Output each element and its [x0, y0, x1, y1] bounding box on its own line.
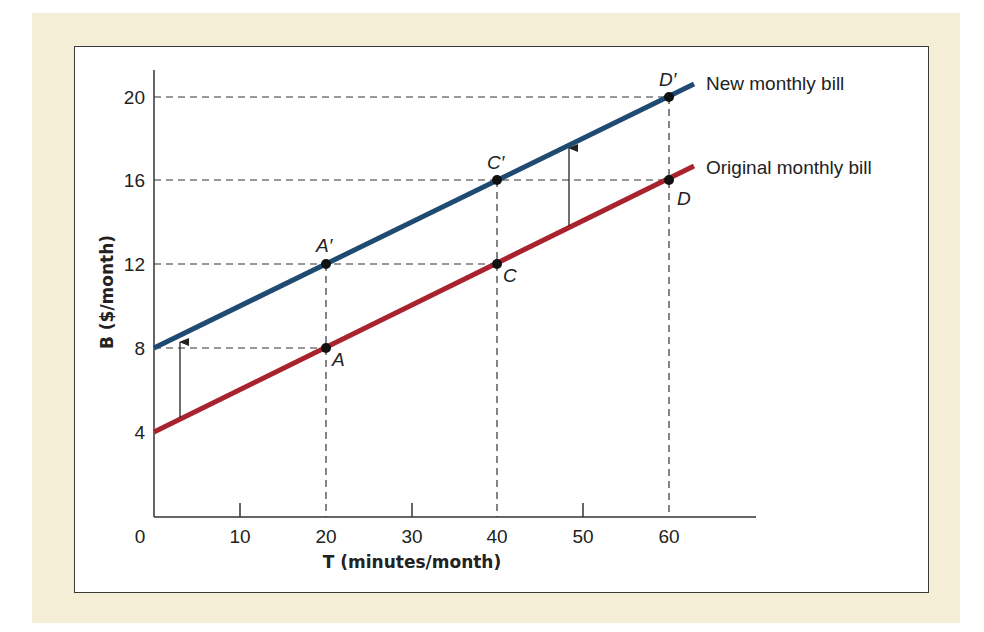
point-label-d-prime: D′	[659, 69, 678, 90]
point-label-a-prime: A′	[315, 235, 334, 256]
axes	[154, 70, 756, 517]
svg-text:8: 8	[134, 338, 145, 359]
svg-text:0: 0	[135, 526, 146, 547]
svg-text:20: 20	[124, 87, 145, 108]
point-label-c-prime: C′	[487, 152, 506, 173]
new-bill-line	[154, 84, 694, 348]
svg-text:4: 4	[134, 422, 145, 443]
point-label-d: D	[677, 188, 691, 209]
y-axis-title: B ($/month)	[97, 235, 117, 349]
point-label-c: C	[503, 265, 517, 286]
svg-text:60: 60	[658, 526, 679, 547]
point-label-a: A	[331, 349, 345, 370]
original-bill-line	[154, 166, 694, 432]
legend-original-bill: Original monthly bill	[706, 157, 872, 178]
svg-text:20: 20	[315, 526, 336, 547]
y-tick-labels: 20 16 12 8 4	[124, 87, 146, 443]
chart: A A′ C C′ D D′ New monthly bill Original…	[0, 0, 984, 632]
svg-text:40: 40	[486, 526, 507, 547]
svg-text:30: 30	[401, 526, 422, 547]
svg-text:10: 10	[229, 526, 250, 547]
svg-text:16: 16	[124, 170, 145, 191]
x-tick-labels: 0 10 20 30 40 50 60	[135, 526, 680, 547]
legend-new-bill: New monthly bill	[706, 73, 844, 94]
x-axis-title: T (minutes/month)	[323, 552, 502, 572]
svg-text:12: 12	[124, 254, 145, 275]
svg-text:50: 50	[572, 526, 593, 547]
